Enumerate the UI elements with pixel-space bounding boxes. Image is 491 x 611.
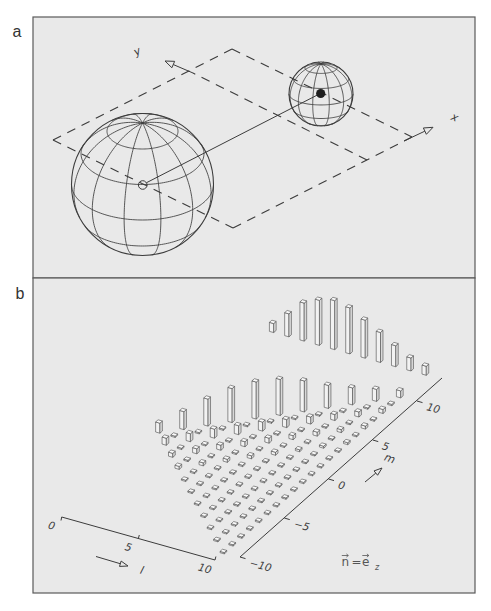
back-row-bar: [407, 355, 414, 371]
histogram-bar: [204, 396, 211, 426]
histogram-bar: [223, 456, 230, 462]
histogram-bar: [324, 382, 331, 408]
annotation-e: e: [362, 555, 369, 569]
panel-a: a y x: [13, 17, 476, 278]
histogram-bar: [234, 422, 241, 434]
histogram-bar: [355, 409, 362, 417]
histogram-bar: [252, 379, 259, 419]
histogram-bar: [175, 463, 182, 469]
histogram-bar: [379, 406, 386, 413]
histogram-bar: [247, 452, 254, 458]
histogram-bar: [313, 429, 320, 436]
back-row-bar: [391, 342, 398, 366]
histogram-bar: [241, 438, 248, 446]
back-row-bar: [422, 363, 429, 375]
histogram-bar: [372, 386, 379, 401]
figure: a y x b: [0, 0, 491, 611]
histogram-bar: [217, 442, 224, 450]
back-row-bar: [361, 317, 368, 358]
panel-a-label: a: [13, 23, 22, 40]
back-row-bar: [269, 320, 276, 332]
annotation-equals: =: [352, 555, 362, 569]
panel-b-label: b: [16, 285, 25, 302]
histogram-bar: [156, 420, 163, 433]
histogram-bar: [169, 450, 176, 457]
histogram-bar: [307, 414, 314, 424]
histogram-bar: [186, 430, 193, 441]
histogram-bar: [348, 385, 355, 405]
histogram-bar: [265, 435, 272, 443]
back-row-bar: [346, 305, 353, 354]
histogram-bar: [210, 426, 217, 438]
histogram-bar: [258, 419, 265, 431]
panel-b: b −10 −5 0 5 10 m 0 5 10 l: [16, 278, 476, 593]
histogram-bar: [331, 411, 338, 420]
histogram-bar: [276, 376, 283, 415]
histogram-bar: [180, 408, 187, 429]
histogram-bar: [396, 388, 403, 398]
histogram-bar: [199, 459, 206, 465]
histogram-bar: [337, 426, 344, 432]
annotation-n: n: [342, 555, 350, 569]
histogram-bar: [282, 416, 289, 427]
panel-a-frame: [33, 17, 475, 278]
histogram-bar: [289, 432, 296, 439]
back-row-bar: [285, 310, 292, 336]
back-row-bar: [330, 297, 337, 349]
back-row-bar: [315, 297, 322, 345]
back-row-bar: [376, 329, 383, 362]
histogram-bar: [228, 385, 235, 422]
histogram-bar: [361, 423, 368, 429]
histogram-bar: [300, 378, 307, 412]
histogram-bar: [271, 449, 278, 455]
filled-dot-marker-icon: [316, 89, 325, 98]
histogram-bar: [162, 435, 169, 445]
annotation-subscript-z: z: [374, 563, 380, 572]
histogram-bar: [193, 445, 200, 453]
l-tick: [61, 517, 62, 521]
back-row-bar: [300, 300, 307, 341]
